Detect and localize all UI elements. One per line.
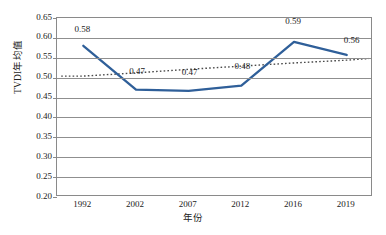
y-axis-tick-label: 0.60: [20, 32, 52, 41]
y-axis-tickmark: [53, 18, 57, 19]
y-axis-tick-label: 0.30: [20, 152, 52, 161]
gridline: [57, 177, 371, 178]
y-axis-tickmark: [53, 58, 57, 59]
y-axis-tick-label: 0.45: [20, 92, 52, 101]
data-label: 0.48: [234, 62, 250, 71]
x-axis-tick-labels: 199220022007201220162019: [0, 199, 386, 213]
x-axis-tick-label: 2007: [179, 199, 197, 209]
data-label: 0.59: [285, 17, 301, 26]
y-axis-tickmark: [53, 137, 57, 138]
y-axis-tickmark: [53, 38, 57, 39]
gridline: [57, 157, 371, 158]
x-axis-tick-label: 1992: [73, 199, 91, 209]
x-axis-title: 年份: [0, 213, 386, 224]
x-axis-tick-label: 2012: [231, 199, 249, 209]
plot-area: [56, 17, 372, 196]
trendline-series: [61, 59, 369, 77]
gridline: [57, 38, 371, 39]
gridline: [57, 117, 371, 118]
chart-container: TVDI年均值 0.650.600.550.500.450.400.350.30…: [0, 0, 386, 235]
gridline: [57, 78, 371, 79]
x-axis-tick-label: 2016: [284, 199, 302, 209]
data-label: 0.47: [129, 67, 145, 76]
y-axis-tickmark: [53, 98, 57, 99]
x-axis-tick-label: 2002: [126, 199, 144, 209]
tvdi-series: [83, 42, 346, 91]
y-axis-tick-label: 0.40: [20, 112, 52, 121]
y-axis-tick-label: 0.25: [20, 172, 52, 181]
y-axis-tickmark: [53, 197, 57, 198]
series-layer: [57, 18, 373, 197]
y-axis-tick-label: 0.50: [20, 72, 52, 81]
data-label: 0.58: [74, 25, 90, 34]
gridline: [57, 98, 371, 99]
x-axis-tick-label: 2019: [337, 199, 355, 209]
y-axis-tickmark: [53, 78, 57, 79]
gridline: [57, 137, 371, 138]
y-axis-tickmark: [53, 117, 57, 118]
y-axis-tick-label: 0.35: [20, 132, 52, 141]
y-axis-tickmark: [53, 157, 57, 158]
gridline: [57, 58, 371, 59]
y-axis-tick-label: 0.65: [20, 13, 52, 22]
y-axis-tickmark: [53, 177, 57, 178]
y-axis-tick-label: 0.55: [20, 52, 52, 61]
data-label: 0.47: [182, 68, 198, 77]
data-label: 0.56: [344, 36, 360, 45]
